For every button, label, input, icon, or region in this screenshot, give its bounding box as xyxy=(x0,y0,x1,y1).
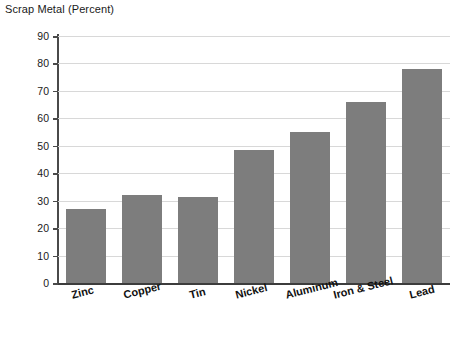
plot-area: 9080706050403020100 xyxy=(58,36,450,283)
y-tick-label: 90 xyxy=(37,30,49,42)
x-axis-label: Tin xyxy=(188,285,207,301)
y-tick-label: 30 xyxy=(37,195,49,207)
y-tick-label: 40 xyxy=(37,167,49,179)
bar xyxy=(290,132,330,283)
x-axis-label: Zinc xyxy=(70,284,95,301)
x-axis-labels: ZincCopperTinNickelAluminumIron & SteelL… xyxy=(58,283,450,339)
bar xyxy=(178,197,218,283)
bar xyxy=(122,195,162,283)
y-tick-label: 50 xyxy=(37,140,49,152)
y-tick-label: 70 xyxy=(37,85,49,97)
bar xyxy=(234,150,274,283)
y-tick-label: 60 xyxy=(37,112,49,124)
y-tick-label: 10 xyxy=(37,250,49,262)
bar xyxy=(346,102,386,283)
bar xyxy=(402,69,442,283)
y-tick-label: 0 xyxy=(43,277,49,289)
x-axis-label: Lead xyxy=(408,283,436,301)
chart-container: Scrap Metal (Percent) 908070605040302010… xyxy=(0,0,464,339)
x-axis-label: Nickel xyxy=(234,281,268,300)
bar-series xyxy=(58,36,450,283)
y-tick-label: 80 xyxy=(37,57,49,69)
x-axis-label: Copper xyxy=(122,280,162,301)
y-tick-label: 20 xyxy=(37,222,49,234)
bar xyxy=(66,209,106,283)
chart-title: Scrap Metal (Percent) xyxy=(5,3,114,15)
